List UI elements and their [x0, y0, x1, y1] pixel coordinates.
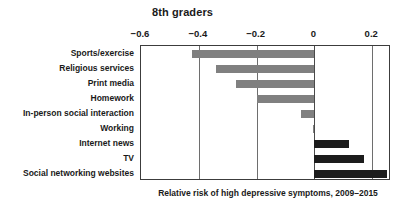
bar-social-networking-websites — [314, 170, 386, 178]
bar-print-media — [236, 80, 314, 88]
category-label-4: In-person social interaction — [0, 108, 134, 118]
category-label-0: Sports/exercise — [0, 48, 134, 58]
chart-caption-text: Relative risk of high depressive symptom… — [158, 188, 378, 198]
bar-in-person-social-interaction — [301, 110, 314, 118]
x-tick-label-4: 0.2 — [365, 28, 378, 39]
bar-tv — [314, 155, 363, 163]
category-label-7: TV — [0, 153, 134, 163]
category-label-1: Religious services — [0, 63, 134, 73]
bar-working — [313, 125, 314, 133]
gridline-1 — [199, 46, 200, 179]
category-label-8: Social networking websites — [0, 168, 134, 178]
x-tick-label-2: −0.2 — [246, 28, 265, 39]
bar-homework — [257, 95, 315, 103]
chart-title: 8th graders — [0, 6, 413, 18]
category-label-5: Working — [0, 123, 134, 133]
chart-figure: 8th graders −0.6−0.4−0.200.2 Sports/exer… — [0, 0, 413, 208]
category-label-2: Print media — [0, 78, 134, 88]
x-tick-label-1: −0.4 — [188, 28, 207, 39]
gridline-4 — [372, 46, 373, 179]
plot-area — [140, 45, 390, 180]
chart-title-text: 8th graders — [152, 6, 213, 18]
chart-caption: Relative risk of high depressive symptom… — [140, 188, 392, 198]
x-tick-label-0: −0.6 — [131, 28, 150, 39]
category-label-3: Homework — [0, 93, 134, 103]
x-tick-label-3: 0 — [311, 28, 316, 39]
bar-internet-news — [314, 140, 349, 148]
category-label-6: Internet news — [0, 138, 134, 148]
bar-sports-exercise — [192, 50, 315, 58]
bar-religious-services — [216, 65, 314, 73]
